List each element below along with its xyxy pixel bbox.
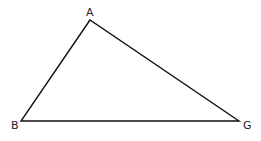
vertex-label-b: B bbox=[11, 119, 19, 132]
vertex-label-g: G bbox=[243, 119, 252, 132]
vertex-label-a: A bbox=[86, 6, 94, 19]
triangle-diagram: A B G bbox=[0, 0, 261, 141]
triangle-abg bbox=[21, 20, 239, 121]
